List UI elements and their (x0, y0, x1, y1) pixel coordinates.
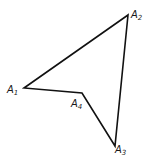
vertex-label-a3: A3 (114, 144, 126, 157)
quadrilateral-diagram: A1 A2 A3 A4 (0, 0, 152, 161)
vertex-label-a2: A2 (130, 9, 143, 22)
quadrilateral-outline (24, 15, 128, 146)
vertex-label-a4: A4 (70, 98, 82, 111)
vertex-label-a1: A1 (6, 84, 18, 97)
